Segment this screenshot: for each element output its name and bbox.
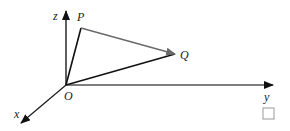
answer-checkbox[interactable] [263, 108, 274, 119]
vector-pq [81, 28, 175, 54]
point-q-label: Q [180, 48, 189, 62]
y-axis-label: y [263, 90, 270, 104]
x-axis [21, 85, 66, 123]
point-p-label: P [76, 10, 85, 24]
x-axis-label: x [13, 107, 20, 121]
origin-label: O [64, 89, 73, 103]
vector-oq [66, 54, 175, 85]
z-axis-label: z [52, 9, 58, 23]
diagram-canvas: z y x P Q O [0, 0, 290, 131]
vector-op [66, 28, 81, 85]
